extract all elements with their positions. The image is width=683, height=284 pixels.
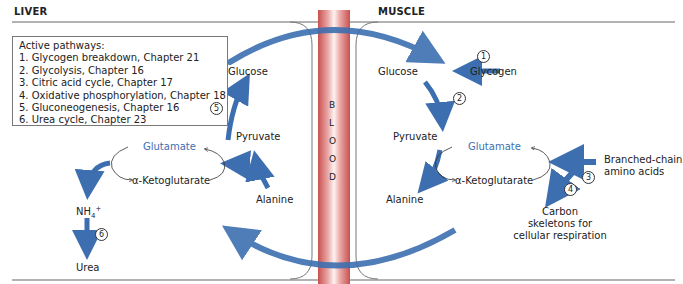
legend-item: 2. Glycolysis, Chapter 16 — [19, 65, 221, 77]
step-6-marker: 6 — [95, 228, 108, 241]
muscle-pyruvate: Pyruvate — [393, 131, 438, 143]
legend-item: 4. Oxidative phosphorylation, Chapter 18 — [19, 90, 221, 102]
liver-glucose: Glucose — [228, 66, 268, 78]
muscle-glycogen: Glycogen — [470, 66, 517, 78]
step-2-marker: 2 — [453, 92, 466, 105]
liver-ketoglutarate: α-Ketoglutarate — [132, 175, 210, 187]
legend-title: Active pathways: — [19, 40, 221, 52]
liver-alanine: Alanine — [256, 194, 293, 206]
legend-item: 5. Gluconeogenesis, Chapter 16 — [19, 102, 221, 114]
muscle-alanine: Alanine — [386, 194, 423, 206]
step-3-marker: 3 — [582, 171, 595, 184]
step-1-marker: 1 — [477, 50, 490, 63]
active-pathways-legend: Active pathways: 1. Glycogen breakdown, … — [12, 36, 228, 126]
muscle-ketoglutarate: α-Ketoglutarate — [455, 175, 533, 187]
step-5-marker: 5 — [210, 102, 223, 115]
liver-pyruvate: Pyruvate — [236, 131, 281, 143]
legend-item: 6. Urea cycle, Chapter 23 — [19, 114, 221, 126]
liver-urea: Urea — [76, 262, 100, 274]
legend-item: 3. Citric acid cycle, Chapter 17 — [19, 77, 221, 89]
muscle-glucose: Glucose — [378, 66, 418, 78]
step-4-marker: 4 — [564, 183, 577, 196]
muscle-glutamate: Glutamate — [468, 141, 521, 153]
liver-ammonium: NH4+ — [76, 203, 101, 222]
muscle-carbon-skeletons: Carbon skeletons for cellular respiratio… — [505, 206, 615, 242]
muscle-bcaa: Branched-chain amino acids — [604, 154, 682, 178]
legend-item: 1. Glycogen breakdown, Chapter 21 — [19, 52, 221, 64]
liver-glutamate: Glutamate — [143, 141, 196, 153]
